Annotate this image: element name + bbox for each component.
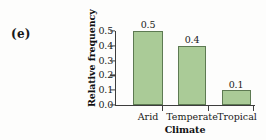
x-category-label-tropical: Tropical	[212, 112, 262, 122]
x-axis-title: Climate	[115, 124, 255, 135]
bar-value-label: 0.4	[172, 35, 212, 45]
bar-arid[interactable]	[133, 31, 163, 105]
bar-temperate[interactable]	[178, 46, 206, 105]
figure-panel: (e) Relative frequency 0.0 0.1 0.2 0.3 0…	[0, 0, 266, 140]
y-axis-tick-labels: 0.0 0.1 0.2 0.3 0.4 0.5	[96, 0, 113, 140]
y-axis-line	[115, 31, 116, 106]
bar-chart: Relative frequency 0.0 0.1 0.2 0.3 0.4 0…	[0, 0, 266, 140]
x-tick-mark	[162, 106, 163, 111]
bar-tropical[interactable]	[222, 90, 251, 105]
bar-value-label: 0.1	[216, 80, 256, 90]
bar-value-label: 0.5	[128, 20, 168, 30]
